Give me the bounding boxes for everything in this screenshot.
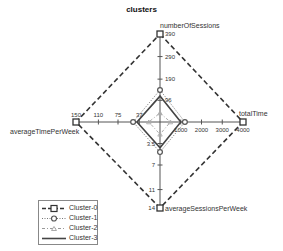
- legend: Cluster-0 Cluster-1 Cluster-2 Cluster-3: [38, 200, 98, 245]
- legend-item-cluster-1: Cluster-1: [41, 213, 99, 223]
- tick-label: 4000: [236, 127, 250, 133]
- legend-label: Cluster-0: [69, 204, 97, 211]
- axes: [76, 34, 243, 208]
- tick-label: 96: [165, 97, 172, 103]
- legend-item-cluster-0: Cluster-0: [41, 203, 99, 213]
- circle-marker-icon: [158, 88, 163, 93]
- tick-label: 390: [165, 31, 176, 37]
- circle-marker-icon: [183, 120, 188, 125]
- tick-label: 110: [94, 112, 104, 118]
- tick-label: 150: [71, 112, 82, 118]
- dashdot-triangle-marker-icon: [41, 224, 67, 233]
- legend-item-cluster-2: Cluster-2: [41, 223, 99, 233]
- solid-line-icon: [41, 234, 67, 243]
- tick-label: 37: [136, 112, 143, 118]
- square-marker-icon: [157, 31, 163, 37]
- tick-label: 11: [149, 187, 156, 193]
- tick-label: 75: [115, 112, 122, 118]
- dotted-circle-marker-icon: [41, 214, 67, 223]
- square-marker-icon: [73, 119, 79, 125]
- tick-label: 14: [148, 205, 155, 211]
- circle-marker-icon: [158, 150, 163, 155]
- axis-name-averageSessionsPerWeek: averageSessionsPerWeek: [165, 205, 248, 213]
- legend-label: Cluster-3: [69, 234, 97, 241]
- series-cluster-1: [133, 90, 185, 152]
- tick-label: 190: [165, 76, 176, 82]
- axis-name-totalTime: totalTime: [239, 110, 268, 117]
- tick-label: 2000: [195, 127, 209, 133]
- dashed-square-marker-icon: [41, 204, 67, 213]
- axis-name-numberOfSessions: numberOfSessions: [160, 22, 220, 29]
- axis-labels: 9619029039010002000300040003.57111437751…: [10, 22, 268, 213]
- radar-chart: clusters 9619029039010002000300040003.57…: [0, 0, 283, 251]
- legend-label: Cluster-2: [69, 224, 97, 231]
- legend-label: Cluster-1: [69, 214, 97, 221]
- tick-label: 3000: [216, 127, 230, 133]
- square-marker-icon: [240, 119, 246, 125]
- tick-label: 290: [165, 54, 176, 60]
- tick-label: 1000: [174, 127, 188, 133]
- square-marker-icon: [157, 205, 163, 211]
- tick-label: 7: [152, 162, 156, 168]
- axis-name-averageTimePerWeek: averageTimePerWeek: [10, 128, 80, 136]
- tick-label: 3.5: [147, 141, 156, 147]
- circle-marker-icon: [131, 120, 136, 125]
- legend-item-cluster-3: Cluster-3: [41, 233, 99, 243]
